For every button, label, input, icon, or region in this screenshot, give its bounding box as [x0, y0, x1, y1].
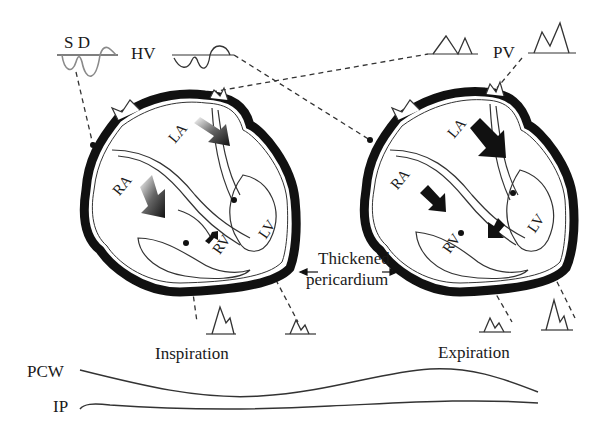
mitral-inflow-expiration — [541, 300, 573, 330]
mitral-inflow-inspiration — [285, 320, 316, 334]
pcw-trace — [80, 369, 538, 397]
pericardium-label-line1: Thickened — [318, 250, 390, 267]
pericardium-label-line2: pericardium — [306, 271, 388, 288]
hv-label: HV — [131, 45, 156, 62]
pcw-label: PCW — [27, 363, 64, 380]
tricuspid-inflow-inspiration — [206, 307, 236, 334]
tricuspid-inflow-expiration — [479, 318, 511, 332]
expiration-label: Expiration — [438, 344, 510, 361]
ip-label: IP — [53, 398, 68, 415]
inspiration-label: Inspiration — [155, 345, 229, 362]
mitral-inflow-waveform-top — [428, 36, 478, 54]
ip-trace — [80, 401, 538, 409]
diagram-canvas: S D HV PV LA RA RV LV LA RA RV LV Thicke… — [0, 0, 615, 440]
hv-waveform — [172, 46, 234, 68]
diagram-graphics — [0, 0, 615, 440]
pv-waveform — [528, 23, 576, 53]
pv-label: PV — [493, 44, 515, 61]
sd-label: S D — [64, 34, 90, 51]
